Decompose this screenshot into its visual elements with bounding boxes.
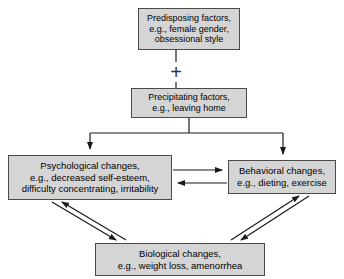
plus-operator-icon: + — [166, 62, 186, 82]
node-psychological-changes: Psychological changes, e.g., decreased s… — [8, 155, 172, 200]
diagram-canvas: Predisposing factors, e.g., female gende… — [0, 0, 344, 279]
node-biological-changes: Biological changes, e.g., weight loss, a… — [95, 243, 265, 276]
node-predisposing-factors: Predisposing factors, e.g., female gende… — [138, 8, 240, 50]
node-behavioral-changes: Behavioral changes, e.g., dieting, exerc… — [228, 160, 336, 194]
node-precipitating-factors: Precipitating factors, e.g., leaving hom… — [131, 88, 247, 118]
edge-psychological-to-biological — [52, 202, 116, 240]
edge-biological-to-psychological — [62, 202, 126, 240]
edge-biological-to-behavioral — [231, 196, 299, 240]
edge-behavioral-to-biological — [241, 196, 309, 240]
